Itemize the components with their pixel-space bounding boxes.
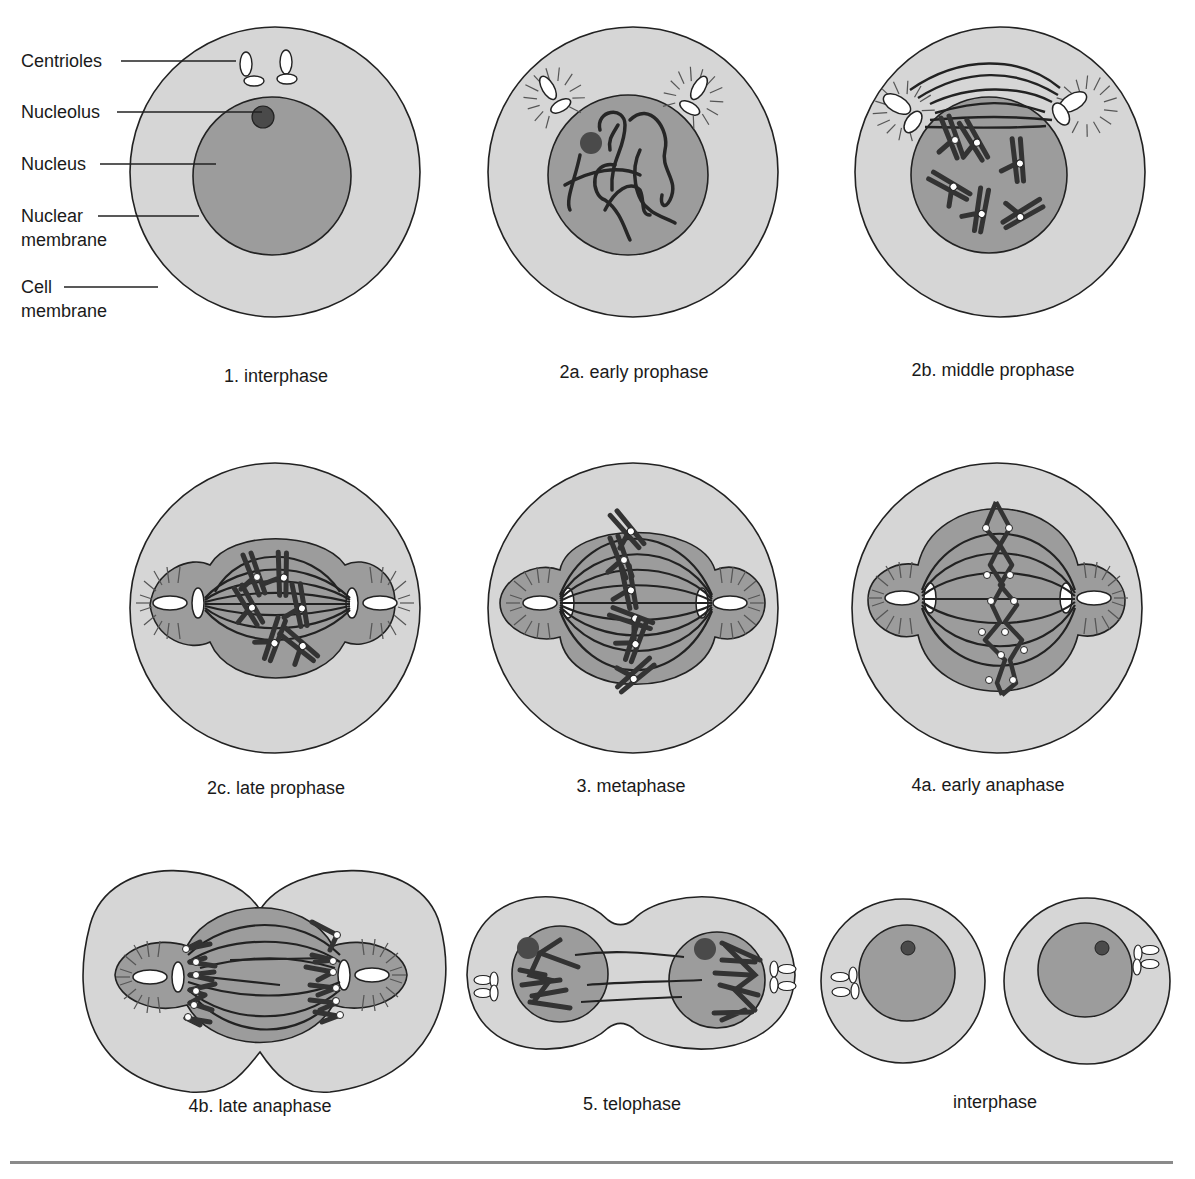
- caption-early-anaphase: 4a. early anaphase: [911, 774, 1064, 796]
- bottom-rule: [10, 1161, 1173, 1164]
- caption-middle-prophase: 2b. middle prophase: [911, 359, 1074, 381]
- nucleolus: [252, 106, 274, 128]
- stage-1-interphase: [64, 27, 420, 317]
- stage-5-telophase: [467, 897, 796, 1049]
- stage-4a-early-anaphase: [852, 463, 1142, 753]
- stage-2a-early-prophase: [488, 27, 778, 317]
- label-cell-membrane: membrane: [21, 300, 107, 322]
- caption-late-anaphase: 4b. late anaphase: [188, 1095, 331, 1117]
- caption-interphase: 1. interphase: [224, 365, 328, 387]
- label-cell: Cell: [21, 276, 52, 298]
- stage-3-metaphase: [488, 463, 778, 753]
- caption-interphase-final: interphase: [953, 1091, 1037, 1113]
- label-nucleus: Nucleus: [21, 153, 86, 175]
- label-nucleolus: Nucleolus: [21, 101, 100, 123]
- caption-telophase: 5. telophase: [583, 1093, 681, 1115]
- stage-2c-late-prophase: [130, 463, 420, 753]
- caption-early-prophase: 2a. early prophase: [559, 361, 708, 383]
- stage-2b-middle-prophase: [855, 27, 1145, 317]
- label-nuclear-membrane: membrane: [21, 229, 107, 251]
- mitosis-diagram: [0, 0, 1195, 1179]
- stage-4b-late-anaphase: [83, 871, 446, 1093]
- caption-late-prophase: 2c. late prophase: [207, 777, 345, 799]
- label-centrioles: Centrioles: [21, 50, 102, 72]
- stage-interphase-daughters: [821, 898, 1170, 1064]
- caption-metaphase: 3. metaphase: [576, 775, 685, 797]
- label-nuclear: Nuclear: [21, 205, 83, 227]
